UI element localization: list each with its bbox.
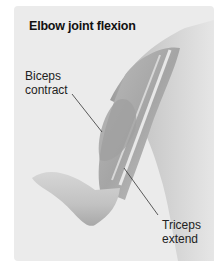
biceps-label-line1: Biceps	[25, 69, 68, 83]
biceps-label: Biceps contract	[25, 69, 68, 97]
triceps-label: Triceps extend	[162, 218, 201, 246]
triceps-leader-line	[124, 168, 158, 215]
figure-title: Elbow joint flexion	[29, 19, 136, 33]
triceps-label-line2: extend	[162, 232, 201, 246]
triceps-label-line1: Triceps	[162, 218, 201, 232]
biceps-label-line2: contract	[25, 83, 68, 97]
biceps-leader-line	[72, 94, 102, 132]
